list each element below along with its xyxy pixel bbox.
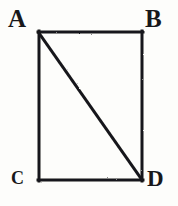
vertex-label-b: B: [145, 6, 162, 31]
vertex-label-a: A: [8, 6, 26, 31]
vertex-label-c: C: [11, 169, 24, 187]
vertex-label-d: D: [147, 167, 164, 190]
figure-strokes: [38, 31, 143, 181]
geometry-figure: A B C D: [0, 0, 178, 206]
diagonal-ad: [39, 33, 142, 180]
